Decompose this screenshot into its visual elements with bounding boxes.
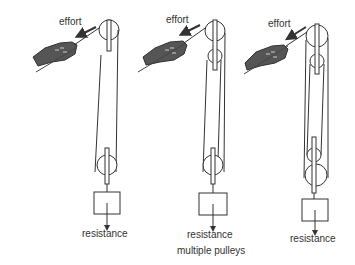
- pulley-system-3: [244, 24, 328, 233]
- effort-label-1: effort: [59, 16, 82, 27]
- hand-icon: [33, 42, 77, 72]
- resistance-label-3: resistance: [290, 233, 336, 244]
- hand-icon: [138, 41, 187, 72]
- caption: multiple pulleys: [177, 245, 245, 256]
- effort-label-3: effort: [268, 18, 291, 29]
- pulley-system-2: [138, 20, 227, 229]
- hand-icon: [244, 45, 288, 74]
- effort-arrow-icon: [290, 27, 306, 37]
- effort-label-2: effort: [166, 14, 189, 25]
- pulley-diagram: [0, 0, 355, 265]
- resistance-label-1: resistance: [82, 228, 128, 239]
- effort-arrow-icon: [80, 27, 96, 35]
- pulley-system-1: [33, 20, 120, 228]
- effort-arrow-icon: [184, 25, 200, 33]
- resistance-label-2: resistance: [187, 229, 233, 240]
